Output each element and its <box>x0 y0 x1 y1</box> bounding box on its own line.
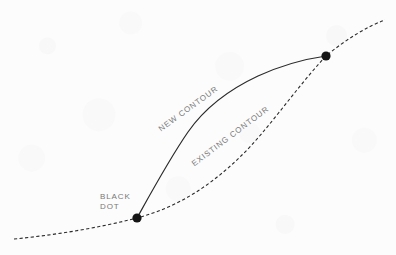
black-dot-label-line1: BLACK <box>100 192 131 202</box>
diagram-canvas <box>0 0 396 255</box>
black-dot-label: BLACK DOT <box>100 192 131 212</box>
black-dot-label-line2: DOT <box>100 202 131 212</box>
lower-tie-in-dot <box>132 213 141 222</box>
upper-tie-in-dot <box>321 51 330 60</box>
contour-diagram: NEW CONTOUR EXISTING CONTOUR BLACK DOT <box>0 0 396 255</box>
